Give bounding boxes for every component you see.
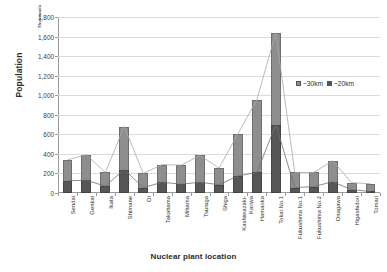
category-label: Ikata xyxy=(108,196,115,209)
legend-label-20km: ~20km xyxy=(334,80,354,87)
y-tick-label: 600 xyxy=(43,131,54,138)
line-overlay-20km xyxy=(67,125,370,192)
category-label: Sendai xyxy=(70,196,77,214)
legend-item-20km[interactable]: ~20km xyxy=(327,80,354,87)
chart-legend: ~30km ~20km xyxy=(296,80,354,87)
category-label: Shiga xyxy=(222,196,229,211)
category-label: Onagawa xyxy=(335,196,342,221)
plot-area: 02004006008001,0001,2001,4001,6001,800 xyxy=(58,17,380,193)
y-tick-label: 1,600 xyxy=(38,33,54,40)
y-tick-label: 400 xyxy=(43,150,54,157)
y-axis-title: Population xyxy=(14,30,24,120)
category-label: Takahama xyxy=(165,196,172,223)
category-label: Higashidori xyxy=(354,196,361,225)
x-axis-title: Nuclear plant location xyxy=(0,252,387,261)
category-label: Fukushima No.2 xyxy=(316,196,323,239)
category-label: Shimane xyxy=(127,196,134,219)
category-label: Genkai xyxy=(89,196,96,215)
category-label: Oi xyxy=(146,196,153,202)
category-label: Fukushima No.1 xyxy=(297,196,304,239)
y-tick-label: 200 xyxy=(43,170,54,177)
square-swatch-light-icon xyxy=(296,81,301,86)
y-tick-label: 800 xyxy=(43,111,54,118)
line-overlay-layer xyxy=(58,17,380,193)
category-label: Kashiwazaki- Kariwa xyxy=(241,196,254,231)
population-bar-chart: Population Thousands 02004006008001,0001… xyxy=(0,0,387,272)
category-label: Hamaoka xyxy=(259,196,266,221)
square-swatch-dark-icon xyxy=(327,81,332,86)
y-tick-label: 0 xyxy=(50,190,54,197)
category-label: Tomari xyxy=(373,196,380,214)
line-overlay-30km xyxy=(67,33,370,184)
category-label: Tokai No.1 xyxy=(278,196,285,224)
legend-label-30km: ~30km xyxy=(303,80,323,87)
category-tick xyxy=(380,193,381,196)
y-tick-label: 1,800 xyxy=(38,14,54,21)
y-tick-label: 1,400 xyxy=(38,53,54,60)
y-tick-label: 1,200 xyxy=(38,72,54,79)
category-axis-labels: SendaiGenkaiIkataShimaneOiTakahamaMihama… xyxy=(58,196,380,250)
y-tick-label: 1,000 xyxy=(38,92,54,99)
category-label: Mihama xyxy=(184,196,191,217)
legend-item-30km[interactable]: ~30km xyxy=(296,80,323,87)
category-label: Tsuruga xyxy=(203,196,210,217)
